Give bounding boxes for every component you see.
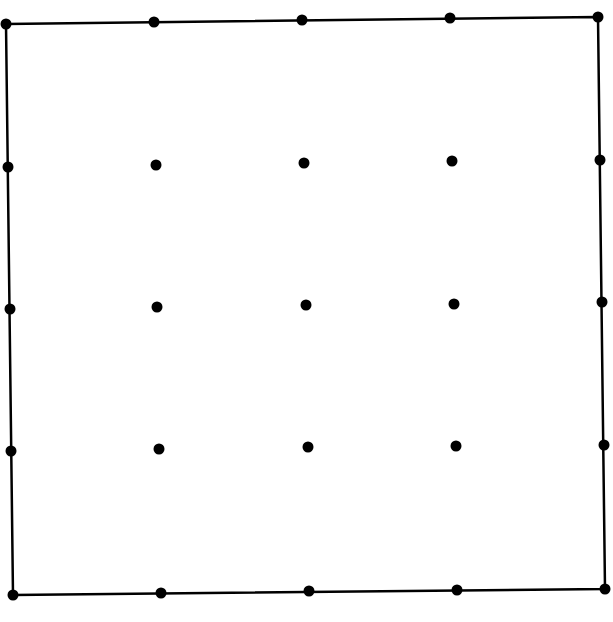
grid-dot-r4-c3	[452, 585, 463, 596]
grid-dot-r2-c4	[597, 297, 608, 308]
grid-dot-r1-c4	[595, 155, 606, 166]
dot-grid-diagram	[0, 0, 613, 622]
grid-dot-r0-c4	[593, 12, 604, 23]
grid-dot-r0-c2	[297, 15, 308, 26]
grid-dot-r1-c3	[447, 156, 458, 167]
grid-dot-r3-c3	[451, 441, 462, 452]
grid-dot-r3-c0	[6, 446, 17, 457]
grid-dot-r4-c4	[600, 584, 611, 595]
grid-dot-r1-c1	[151, 160, 162, 171]
grid-dot-r3-c1	[154, 444, 165, 455]
grid-dot-r1-c0	[3, 162, 14, 173]
grid-dot-r1-c2	[299, 158, 310, 169]
grid-dot-r0-c1	[149, 17, 160, 28]
grid-dot-r4-c0	[8, 590, 19, 601]
grid-dot-r2-c1	[152, 302, 163, 313]
grid-dots	[1, 12, 611, 601]
grid-dot-r0-c3	[445, 13, 456, 24]
grid-dot-r4-c2	[304, 586, 315, 597]
grid-dot-r2-c2	[301, 300, 312, 311]
grid-dot-r2-c0	[5, 304, 16, 315]
grid-dot-r2-c3	[449, 299, 460, 310]
grid-dot-r4-c1	[156, 588, 167, 599]
grid-dot-r3-c2	[303, 442, 314, 453]
grid-dot-r0-c0	[1, 19, 12, 30]
grid-dot-r3-c4	[599, 440, 610, 451]
